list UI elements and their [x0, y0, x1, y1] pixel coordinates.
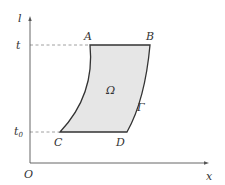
horizontal-axis-label: x — [206, 170, 213, 183]
point-d-label: D — [115, 136, 125, 149]
level-t0-label: t0 — [14, 125, 23, 139]
point-a-label: A — [83, 30, 92, 43]
diagram-canvas: l x O t t0 A B C D Ω Γ — [0, 0, 225, 185]
level-t0-subscript: 0 — [18, 131, 23, 139]
vertical-axis-arrow — [28, 16, 31, 21]
region-omega — [60, 45, 150, 132]
boundary-label: Γ — [136, 101, 145, 114]
point-c-label: C — [54, 136, 63, 149]
point-b-label: B — [145, 30, 154, 43]
vertical-axis-label: l — [18, 12, 22, 25]
horizontal-axis-arrow — [204, 161, 209, 164]
level-t-label: t — [16, 39, 21, 52]
region-label: Ω — [105, 84, 115, 97]
origin-label: O — [24, 168, 33, 181]
